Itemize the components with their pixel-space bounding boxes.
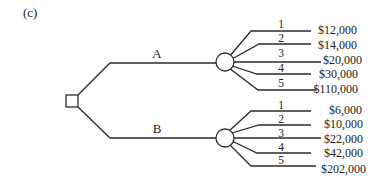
outcome-value: $6,000 — [329, 103, 362, 117]
outcome-line — [232, 44, 311, 59]
outcome-value: $202,000 — [321, 162, 366, 176]
outcome-line — [232, 141, 311, 153]
panel-label: (c) — [23, 5, 37, 20]
outcome-value: $30,000 — [319, 67, 358, 81]
outcome-line — [229, 111, 311, 131]
outcome-value: $110,000 — [313, 82, 358, 96]
chance-node-b-circle-icon — [216, 129, 234, 147]
outcome-number: 4 — [278, 62, 284, 74]
outcome-value: $22,000 — [324, 132, 363, 146]
branch-a-label: A — [152, 46, 162, 61]
outcome-value: $20,000 — [323, 53, 362, 67]
outcome-number: 2 — [278, 32, 284, 44]
branch-a-line — [78, 63, 216, 95]
branch-b-line — [78, 107, 216, 138]
outcome-number: 3 — [278, 47, 284, 59]
outcome-line — [232, 66, 311, 74]
decision-tree-diagram: (c) A B 1 2 3 4 5 $12,000 $14,000 $20,00… — [0, 0, 382, 187]
outcome-number: 1 — [278, 18, 284, 30]
outcome-value: $12,000 — [318, 23, 357, 37]
outcome-number: 5 — [278, 154, 284, 166]
outcome-line — [229, 144, 316, 166]
chance-node-b-outcomes: 1 2 3 4 5 $6,000 $10,000 $22,000 $42,000… — [229, 99, 366, 176]
outcome-number: 4 — [278, 141, 284, 153]
outcome-number: 3 — [278, 127, 284, 139]
decision-node-square-icon — [66, 95, 78, 107]
branch-b-label: B — [153, 121, 162, 136]
outcome-value: $42,000 — [324, 146, 363, 160]
outcome-number: 5 — [278, 77, 284, 89]
chance-node-a-circle-icon — [216, 53, 234, 71]
outcome-number: 1 — [278, 99, 284, 111]
outcome-line — [232, 125, 311, 133]
outcome-value: $14,000 — [318, 38, 357, 52]
outcome-number: 2 — [278, 113, 284, 125]
outcome-value: $10,000 — [324, 117, 363, 131]
outcome-line — [229, 68, 316, 90]
chance-node-a-outcomes: 1 2 3 4 5 $12,000 $14,000 $20,000 $30,00… — [229, 18, 362, 96]
